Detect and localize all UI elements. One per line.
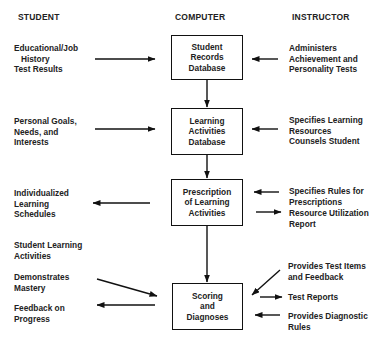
arrow-mastery-to-scoring <box>97 279 157 296</box>
arrow-test-items-to-scoring <box>252 270 280 295</box>
flow-arrows <box>0 0 379 342</box>
